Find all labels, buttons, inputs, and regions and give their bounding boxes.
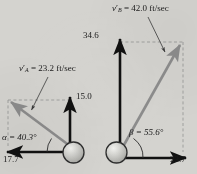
alpha-angle-arc (47, 139, 52, 153)
right-horizontal-value-label: 23.7 (170, 155, 186, 164)
va-value: = 23.2 ft/sec (31, 63, 76, 73)
vb-leader-line (148, 17, 165, 52)
vb-subscript: B (118, 7, 122, 13)
ball-b (106, 142, 127, 163)
beta-angle-label: β = 55.6° (129, 128, 163, 137)
va-leader-line (32, 77, 49, 110)
left-vertical-value-label: 15.0 (76, 92, 92, 101)
right-vertical-value-label: 34.6 (83, 31, 99, 40)
va-subscript: A (25, 67, 29, 73)
beta-angle-arc (134, 139, 144, 159)
vector-vb-label: v′B = 42.0 ft/sec (112, 4, 169, 13)
ball-a (63, 142, 84, 163)
alpha-angle-label: α = 40.3° (2, 133, 37, 142)
vector-diagram-svg (0, 0, 197, 174)
vb-value: = 42.0 ft/sec (124, 3, 169, 13)
vector-va-label: v′A = 23.2 ft/sec (19, 64, 76, 73)
figure-canvas: v′A = 23.2 ft/sec v′B = 42.0 ft/sec α = … (0, 0, 197, 174)
left-horizontal-value-label: 17.7 (3, 155, 19, 164)
